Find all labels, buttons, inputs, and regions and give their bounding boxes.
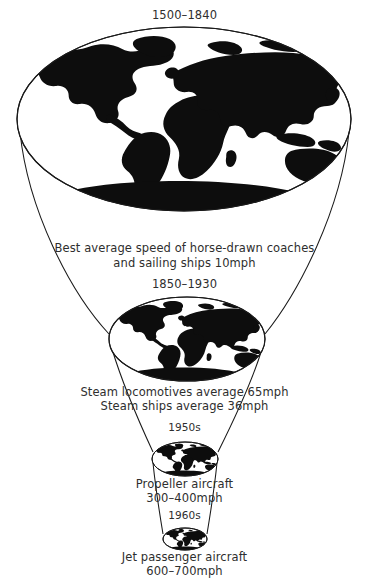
globe-1850-1930 bbox=[109, 297, 269, 382]
caption-4-line-1: Jet passenger aircraft bbox=[0, 551, 369, 565]
globe-1960s bbox=[163, 528, 208, 550]
globe-1500-1840 bbox=[17, 27, 358, 213]
era-label-1850-1930: 1850–1930 bbox=[0, 277, 369, 291]
shrinking-world-diagram: 1500–1840 Best average speed of horse-dr… bbox=[0, 0, 369, 579]
caption-2-line-2: Steam ships average 36mph bbox=[0, 400, 369, 414]
caption-3-line-1: Propeller aircraft bbox=[0, 478, 369, 492]
caption-1-line-1: Best average speed of horse-drawn coache… bbox=[0, 242, 369, 256]
caption-1-line-2: and sailing ships 10mph bbox=[0, 257, 369, 271]
caption-2-line-1: Steam locomotives average 65mph bbox=[0, 386, 369, 400]
globe-1950s bbox=[152, 442, 220, 476]
era-label-1950s: 1950s bbox=[0, 421, 369, 434]
era-label-1960s: 1960s bbox=[0, 509, 369, 522]
caption-4-line-2: 600–700mph bbox=[0, 565, 369, 579]
era-label-1500-1840: 1500–1840 bbox=[0, 8, 369, 22]
caption-3-line-2: 300–400mph bbox=[0, 492, 369, 506]
